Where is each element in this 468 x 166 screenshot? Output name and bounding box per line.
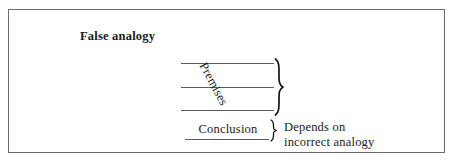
- conclusion-label: Conclusion: [185, 122, 271, 137]
- annotation-line-2: incorrect analogy: [284, 135, 375, 150]
- conclusion-underline: [185, 139, 269, 140]
- premises-brace-svg: [272, 56, 288, 118]
- annotation-text: Depends on incorrect analogy: [284, 120, 375, 149]
- annotation-line-1: Depends on: [284, 120, 375, 135]
- conclusion-brace-svg: [268, 118, 280, 143]
- figure-frame: False analogy Premises Conclusion Depend…: [8, 9, 445, 153]
- conclusion-group: Conclusion: [185, 122, 271, 142]
- conclusion-brace-icon: [268, 118, 280, 143]
- figure-root: False analogy Premises Conclusion Depend…: [0, 0, 468, 166]
- figure-title: False analogy: [80, 29, 155, 44]
- premise-line-2: [181, 87, 274, 88]
- premises-brace-icon: [272, 56, 288, 118]
- premise-line-1: [181, 63, 274, 64]
